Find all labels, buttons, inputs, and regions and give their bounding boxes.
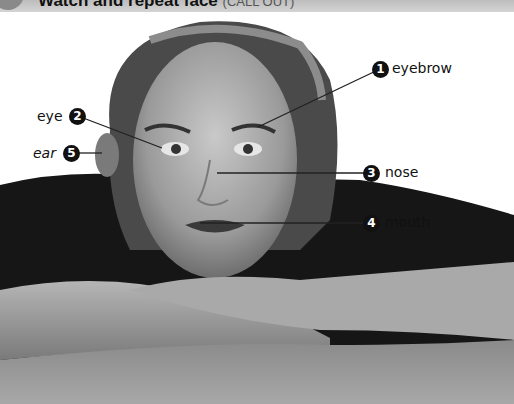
header-subtitle: (CALL OUT)	[223, 0, 295, 9]
section-badge	[0, 0, 24, 10]
label-eye: eye	[37, 108, 63, 124]
label-mouth: mouth	[385, 214, 430, 230]
label-ear: ear	[33, 145, 56, 161]
callout-number-4: 4	[363, 215, 380, 232]
callout-number-3: 3	[363, 165, 380, 182]
header-band: Watch and repeat face (CALL OUT)	[0, 0, 514, 12]
callout-number-2: 2	[69, 108, 86, 125]
label-eyebrow: eyebrow	[392, 60, 452, 76]
face-photo: 1 eyebrow eye 2 ear 5 3 nose 4 mouth	[0, 12, 514, 404]
callout-number-5: 5	[63, 145, 80, 162]
label-nose: nose	[385, 164, 418, 180]
callout-number-1: 1	[372, 61, 389, 78]
header-title: Watch and repeat face (CALL OUT)	[38, 0, 294, 11]
header-title-text: Watch and repeat face	[38, 0, 218, 10]
